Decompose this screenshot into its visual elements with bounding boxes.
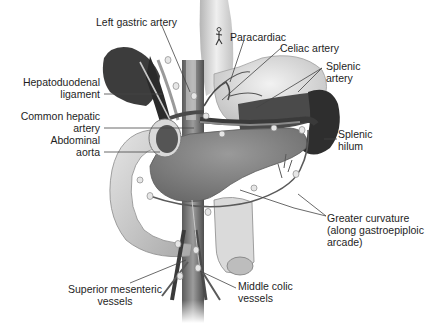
label-middle-colic-vessels: Middle colic vessels bbox=[238, 280, 293, 304]
anatomy-figure: Left gastric artery Paracardiac Celiac a… bbox=[0, 0, 441, 323]
label-celiac-artery: Celiac artery bbox=[280, 42, 339, 54]
label-splenic-artery: Splenic artery bbox=[326, 60, 360, 84]
label-greater-curvature: Greater curvature (along gastroepiploic … bbox=[327, 212, 424, 248]
label-abdominal-aorta: Abdominal aorta bbox=[50, 134, 100, 158]
anatomy-illustration bbox=[0, 0, 441, 323]
running-figure-icon bbox=[214, 27, 224, 47]
label-paracardiac: Paracardiac bbox=[230, 31, 286, 43]
label-splenic-hilum: Splenic hilum bbox=[338, 128, 372, 152]
label-left-gastric-artery: Left gastric artery bbox=[96, 16, 177, 28]
label-hepatoduodenal-ligament: Hepatoduodenal ligament bbox=[23, 76, 100, 100]
label-common-hepatic-artery: Common hepatic artery bbox=[21, 110, 100, 134]
label-superior-mesenteric-vessels: Superior mesenteric vessels bbox=[68, 283, 162, 307]
